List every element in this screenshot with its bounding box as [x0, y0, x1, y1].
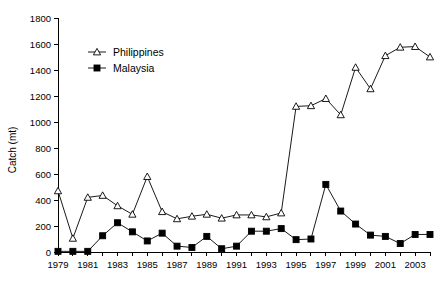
legend-label-philippines: Philippines — [113, 46, 164, 58]
data-series — [54, 43, 433, 254]
y-tick-label: 800 — [35, 143, 51, 154]
data-point-marker — [308, 236, 314, 242]
data-point-marker — [412, 43, 419, 49]
chart-legend: PhilippinesMalaysia — [88, 46, 164, 74]
x-tick-label: 2001 — [375, 259, 396, 270]
data-point-marker — [55, 248, 61, 254]
series-line — [58, 47, 430, 239]
data-point-marker — [248, 228, 254, 234]
data-point-marker — [144, 238, 150, 244]
x-tick-label: 1997 — [315, 259, 336, 270]
data-point-marker — [203, 211, 210, 217]
data-point-marker — [412, 231, 418, 237]
y-tick-label: 200 — [35, 221, 51, 232]
data-point-marker — [100, 233, 106, 239]
legend-label-malaysia: Malaysia — [113, 62, 155, 74]
y-tick-label: 600 — [35, 169, 51, 180]
x-tick-label: 1995 — [286, 259, 307, 270]
x-tick-label: 1987 — [166, 259, 187, 270]
data-point-marker — [353, 221, 359, 227]
data-point-marker — [307, 102, 314, 108]
y-tick-label: 1600 — [30, 39, 51, 50]
data-point-marker — [219, 246, 225, 252]
y-axis-ticks — [54, 18, 58, 252]
data-point-marker — [234, 243, 240, 249]
y-tick-label: 1400 — [30, 65, 51, 76]
data-point-marker — [293, 237, 299, 243]
chart-figure: 020040060080010001200140016001800 197919… — [0, 0, 438, 284]
x-tick-label: 1981 — [77, 259, 98, 270]
x-axis-tick-labels: 1979198119831985198719891991199319951997… — [47, 259, 425, 270]
data-point-marker — [323, 181, 329, 187]
series-line — [58, 184, 430, 251]
data-point-marker — [115, 220, 121, 226]
data-point-marker — [99, 192, 106, 198]
data-point-marker — [278, 226, 284, 232]
data-point-marker — [94, 65, 100, 71]
data-point-marker — [338, 208, 344, 214]
data-point-marker — [426, 53, 433, 59]
data-point-marker — [69, 235, 76, 241]
data-point-marker — [54, 187, 61, 193]
data-point-marker — [189, 244, 195, 250]
data-point-marker — [129, 229, 135, 235]
y-tick-label: 1800 — [30, 13, 51, 24]
series-philippines — [54, 43, 433, 241]
data-point-marker — [382, 52, 389, 58]
data-point-marker — [397, 241, 403, 247]
x-tick-label: 1979 — [47, 259, 68, 270]
x-tick-label: 1993 — [256, 259, 277, 270]
series-malaysia — [55, 181, 433, 254]
y-tick-label: 400 — [35, 195, 51, 206]
data-point-marker — [367, 85, 374, 91]
data-point-marker — [263, 228, 269, 234]
data-point-marker — [144, 173, 151, 179]
data-point-marker — [352, 64, 359, 70]
x-tick-label: 1985 — [137, 259, 158, 270]
x-tick-label: 1991 — [226, 259, 247, 270]
data-point-marker — [278, 209, 285, 215]
data-point-marker — [367, 232, 373, 238]
y-tick-label: 1000 — [30, 117, 51, 128]
data-point-marker — [159, 230, 165, 236]
x-tick-label: 1989 — [196, 259, 217, 270]
data-point-marker — [114, 202, 121, 208]
data-point-marker — [427, 231, 433, 237]
data-point-marker — [204, 233, 210, 239]
data-point-marker — [85, 248, 91, 254]
y-axis-title: Catch (mt) — [7, 127, 18, 174]
y-axis-tick-labels: 020040060080010001200140016001800 — [30, 13, 51, 258]
x-tick-label: 2003 — [405, 259, 426, 270]
data-point-marker — [159, 208, 166, 214]
line-chart: 020040060080010001200140016001800 197919… — [0, 0, 438, 284]
data-point-marker — [322, 95, 329, 101]
data-point-marker — [174, 243, 180, 249]
x-tick-label: 1999 — [345, 259, 366, 270]
data-point-marker — [70, 248, 76, 254]
x-tick-label: 1983 — [107, 259, 128, 270]
x-axis-ticks — [58, 252, 430, 256]
data-point-marker — [382, 233, 388, 239]
y-tick-label: 1200 — [30, 91, 51, 102]
y-tick-label: 0 — [46, 247, 51, 258]
data-point-marker — [129, 211, 136, 217]
